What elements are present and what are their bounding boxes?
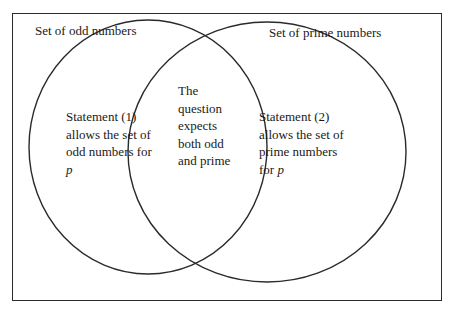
odd-only-variable: p xyxy=(66,161,152,179)
odd-only-region-text: Statement (1) allows the set of odd numb… xyxy=(66,108,152,178)
prime-only-last-line: for p xyxy=(259,161,344,179)
intersection-line: both odd xyxy=(178,135,230,153)
odd-only-line: allows the set of xyxy=(66,126,152,144)
prime-only-prefix: for xyxy=(259,162,277,177)
intersection-line: and prime xyxy=(178,152,230,170)
odd-set-label: Set of odd numbers xyxy=(35,22,136,40)
odd-only-line: Statement (1) xyxy=(66,108,152,126)
intersection-line: question xyxy=(178,100,230,118)
prime-only-line: allows the set of xyxy=(259,126,344,144)
intersection-region-text: The question expects both odd and prime xyxy=(178,82,230,170)
prime-only-variable: p xyxy=(277,162,284,177)
prime-only-region-text: Statement (2) allows the set of prime nu… xyxy=(259,108,344,178)
intersection-line: The xyxy=(178,82,230,100)
odd-only-line: odd numbers for xyxy=(66,143,152,161)
prime-only-line: Statement (2) xyxy=(259,108,344,126)
prime-set-label: Set of prime numbers xyxy=(269,24,381,42)
intersection-line: expects xyxy=(178,117,230,135)
prime-only-line: prime numbers xyxy=(259,143,344,161)
